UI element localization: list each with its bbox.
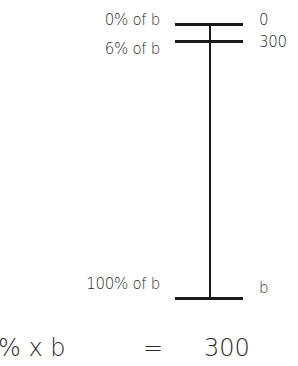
equation-rhs: 300: [204, 334, 250, 362]
value-b: b: [259, 279, 268, 297]
bottom-bar-b: [175, 297, 243, 300]
label-6-percent: 6% of b: [105, 40, 160, 58]
value-0: 0: [259, 11, 268, 29]
equation-equals: =: [143, 334, 163, 362]
equation-lhs: % x b: [0, 334, 66, 362]
vertical-axis: [209, 24, 211, 299]
label-100-percent: 100% of b: [86, 275, 160, 293]
value-300: 300: [259, 33, 287, 51]
label-0-percent: 0% of b: [105, 11, 160, 29]
